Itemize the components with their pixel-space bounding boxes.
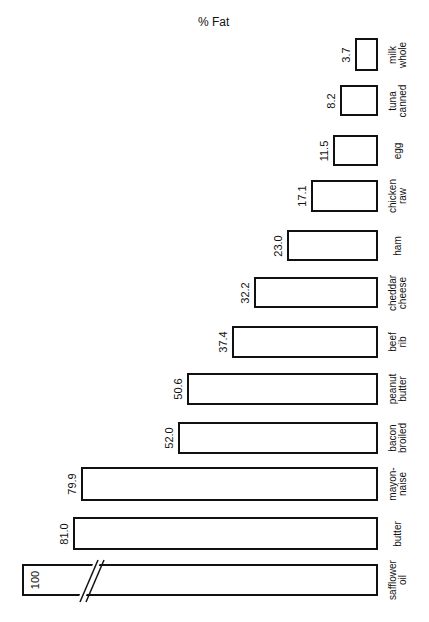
chart-title: % Fat [198, 15, 229, 29]
bar [311, 180, 378, 212]
bar [254, 277, 378, 308]
bar [81, 467, 378, 501]
value-label: 52.0 [162, 418, 176, 458]
value-label: 17.1 [295, 176, 309, 216]
bar [178, 422, 378, 454]
value-label: 100 [28, 560, 42, 600]
bar [355, 38, 378, 71]
bar [287, 230, 378, 261]
bar [340, 85, 378, 116]
bar [333, 135, 378, 166]
value-label: 37.4 [216, 322, 230, 362]
value-label: 3.7 [339, 35, 353, 75]
bar [22, 564, 378, 596]
value-label: 23.0 [271, 226, 285, 266]
bar [187, 373, 378, 405]
bar [73, 517, 378, 550]
category-label: safflower oil [388, 550, 408, 610]
value-label: 81.0 [57, 514, 71, 554]
value-label: 11.5 [317, 131, 331, 171]
value-label: 8.2 [324, 81, 338, 121]
axis-break-icon [78, 558, 108, 604]
value-label: 32.2 [238, 273, 252, 313]
value-label: 79.9 [65, 464, 79, 504]
value-label: 50.6 [171, 369, 185, 409]
bar [232, 326, 378, 358]
